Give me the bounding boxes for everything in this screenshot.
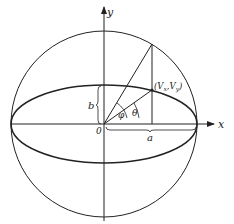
angle-phi-label: φ xyxy=(118,110,125,120)
semi-minor-label: b xyxy=(88,100,94,111)
origin-label: 0 xyxy=(96,126,102,136)
ellipse-radius-line xyxy=(104,90,152,124)
ellipse-circle-diagram: y x 0 b a φ θ (Vx,Vy) xyxy=(0,0,234,224)
semi-minor-brace xyxy=(96,86,101,124)
semi-major-label: a xyxy=(147,132,153,143)
y-axis-label: y xyxy=(106,6,114,19)
x-axis-label: x xyxy=(218,118,225,131)
point-label: (Vx,Vy) xyxy=(154,81,182,93)
angle-theta-label: θ xyxy=(132,108,138,118)
circle-radius-line xyxy=(104,44,152,124)
